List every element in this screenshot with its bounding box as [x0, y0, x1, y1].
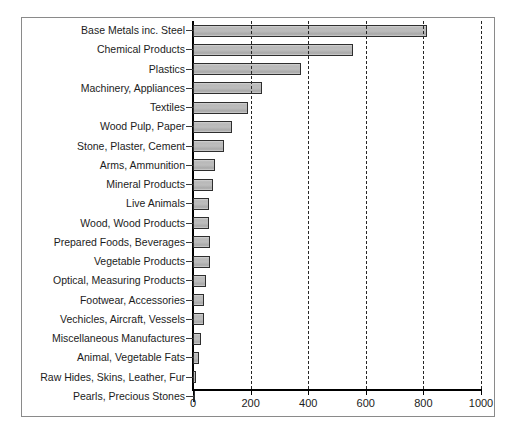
bar-row — [193, 252, 481, 271]
chart-frame: Base Metals inc. SteelChemical ProductsP… — [21, 17, 495, 417]
bar-row — [193, 21, 481, 40]
category-label: Pearls, Precious Stones — [22, 387, 185, 406]
gridline — [423, 21, 424, 389]
bar — [193, 294, 204, 306]
x-axis-tick — [308, 389, 309, 395]
category-tick — [186, 280, 194, 281]
bar — [193, 256, 210, 268]
category-label: Wood Pulp, Paper — [22, 117, 185, 136]
bar — [193, 159, 215, 171]
gridline — [366, 21, 367, 389]
category-label: Stone, Plaster, Cement — [22, 137, 185, 156]
x-axis-tick-label: 0 — [190, 397, 196, 409]
x-axis-tick-label: 400 — [299, 397, 317, 409]
category-tick — [186, 69, 194, 70]
category-label: Vegetable Products — [22, 252, 185, 271]
category-tick — [186, 126, 194, 127]
bar-row — [193, 233, 481, 252]
bar — [193, 140, 224, 152]
bar — [193, 179, 213, 191]
gridline — [308, 21, 309, 389]
bar — [193, 217, 209, 229]
category-label: Vechicles, Aircraft, Vessels — [22, 310, 185, 329]
category-tick — [186, 377, 194, 378]
category-label: Miscellaneous Manufactures — [22, 329, 185, 348]
category-label: Textiles — [22, 98, 185, 117]
bar-series — [193, 21, 481, 387]
category-tick — [186, 261, 194, 262]
category-label: Footwear, Accessories — [22, 291, 185, 310]
x-axis-tick — [193, 389, 194, 395]
category-tick — [186, 49, 194, 50]
category-tick — [186, 165, 194, 166]
category-tick — [186, 319, 194, 320]
bar-row — [193, 368, 481, 387]
category-tick — [186, 338, 194, 339]
bar — [193, 236, 210, 248]
category-label: Plastics — [22, 60, 185, 79]
category-label: Wood, Wood Products — [22, 214, 185, 233]
bar-row — [193, 117, 481, 136]
x-axis-tick — [366, 389, 367, 395]
category-label: Optical, Measuring Products — [22, 271, 185, 290]
category-tick — [186, 184, 194, 185]
category-label: Machinery, Appliances — [22, 79, 185, 98]
bar-row — [193, 214, 481, 233]
bar-row — [193, 271, 481, 290]
x-axis-line — [192, 389, 482, 391]
category-tick — [186, 300, 194, 301]
bar — [193, 333, 201, 345]
bar-row — [193, 291, 481, 310]
bar — [193, 82, 262, 94]
category-label: Prepared Foods, Beverages — [22, 233, 185, 252]
bar-row — [193, 156, 481, 175]
category-tick — [186, 203, 194, 204]
bar — [193, 275, 206, 287]
bar — [193, 102, 248, 114]
x-axis-tick — [423, 389, 424, 395]
category-label: Animal, Vegetable Fats — [22, 348, 185, 367]
bar-row — [193, 348, 481, 367]
gridline — [481, 21, 482, 389]
x-axis-tick-label: 1000 — [469, 397, 493, 409]
bar-row — [193, 137, 481, 156]
category-tick — [186, 357, 194, 358]
bar-row — [193, 60, 481, 79]
bar — [193, 313, 204, 325]
gridline — [251, 21, 252, 389]
x-axis-tick-label: 800 — [414, 397, 432, 409]
bar-row — [193, 40, 481, 59]
category-label: Live Animals — [22, 194, 185, 213]
bar — [193, 198, 209, 210]
x-axis-tick — [251, 389, 252, 395]
bar-row — [193, 79, 481, 98]
category-tick — [186, 88, 194, 89]
bar-row — [193, 175, 481, 194]
category-tick — [186, 223, 194, 224]
category-tick — [186, 242, 194, 243]
category-label: Mineral Products — [22, 175, 185, 194]
category-tick — [186, 146, 194, 147]
category-tick — [186, 30, 194, 31]
category-tick — [186, 396, 194, 397]
x-axis-tick-label: 200 — [241, 397, 259, 409]
bar — [193, 121, 232, 133]
x-axis-tick — [481, 389, 482, 395]
bar-row — [193, 329, 481, 348]
category-label: Chemical Products — [22, 40, 185, 59]
category-axis-labels: Base Metals inc. SteelChemical ProductsP… — [22, 21, 185, 387]
bar — [193, 63, 301, 75]
bar — [193, 25, 427, 37]
category-label: Base Metals inc. Steel — [22, 21, 185, 40]
bar — [193, 44, 353, 56]
bar-row — [193, 98, 481, 117]
plot-area — [193, 21, 481, 387]
x-axis-tick-label: 600 — [357, 397, 375, 409]
category-label: Arms, Ammunition — [22, 156, 185, 175]
bar-row — [193, 310, 481, 329]
category-tick — [186, 107, 194, 108]
category-label: Raw Hides, Skins, Leather, Fur — [22, 368, 185, 387]
bar-row — [193, 194, 481, 213]
